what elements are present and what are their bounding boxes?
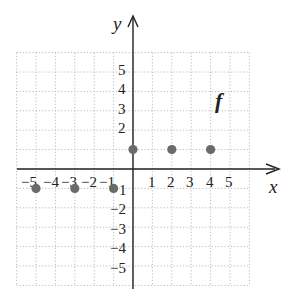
- x-tick-label: −4: [43, 174, 59, 190]
- data-point: [109, 184, 118, 193]
- y-tick-label: 5: [118, 62, 126, 78]
- y-tick-label: −5: [110, 260, 126, 276]
- x-tick-label: 5: [225, 174, 233, 190]
- coordinate-plane: y x f −5 −4 −3 −2 −1 1 2 3 4 5 5 4 3 2 1…: [0, 0, 291, 294]
- data-point: [206, 145, 215, 154]
- x-tick-label: −2: [81, 174, 97, 190]
- x-tick-labels: −5 −4 −3 −2 −1 1 2 3 4 5: [21, 174, 233, 190]
- y-tick-label: 1: [119, 182, 127, 198]
- x-axis-label: x: [268, 176, 278, 197]
- y-axis-label: y: [111, 13, 122, 34]
- y-tick-label: 4: [118, 81, 126, 97]
- data-point: [128, 145, 137, 154]
- x-tick-label: 2: [167, 174, 175, 190]
- data-point: [31, 184, 40, 193]
- x-axis: [17, 164, 279, 174]
- y-tick-label: 3: [118, 101, 126, 117]
- data-point: [167, 145, 176, 154]
- x-tick-label: 3: [186, 174, 194, 190]
- y-tick-label: −4: [110, 240, 126, 256]
- function-label: f: [215, 88, 225, 113]
- x-tick-label: 4: [206, 174, 214, 190]
- data-point: [70, 184, 79, 193]
- y-tick-label: −3: [110, 221, 126, 237]
- x-tick-label: 1: [148, 174, 156, 190]
- y-tick-label: 2: [118, 120, 126, 136]
- y-tick-label: −2: [110, 201, 126, 217]
